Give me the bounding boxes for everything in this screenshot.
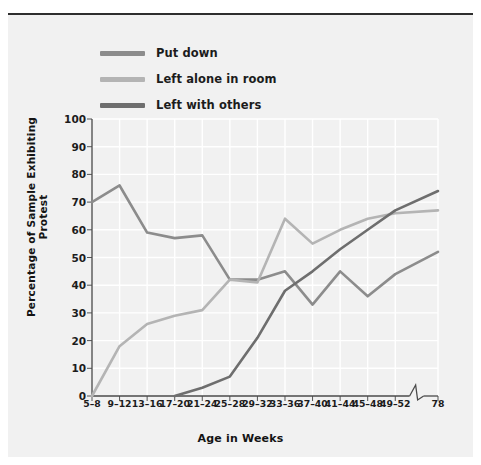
x-axis-break-icon — [410, 385, 424, 400]
series-line-put-down — [92, 185, 438, 304]
plot-area: Percentage of Sample Exhibiting Protest … — [8, 15, 473, 457]
series-line-left-with-others — [175, 191, 438, 396]
chart-page: Put down Left alone in room Left with ot… — [0, 0, 481, 465]
figure-panel: Put down Left alone in room Left with ot… — [8, 15, 473, 457]
plot-svg — [8, 15, 473, 457]
